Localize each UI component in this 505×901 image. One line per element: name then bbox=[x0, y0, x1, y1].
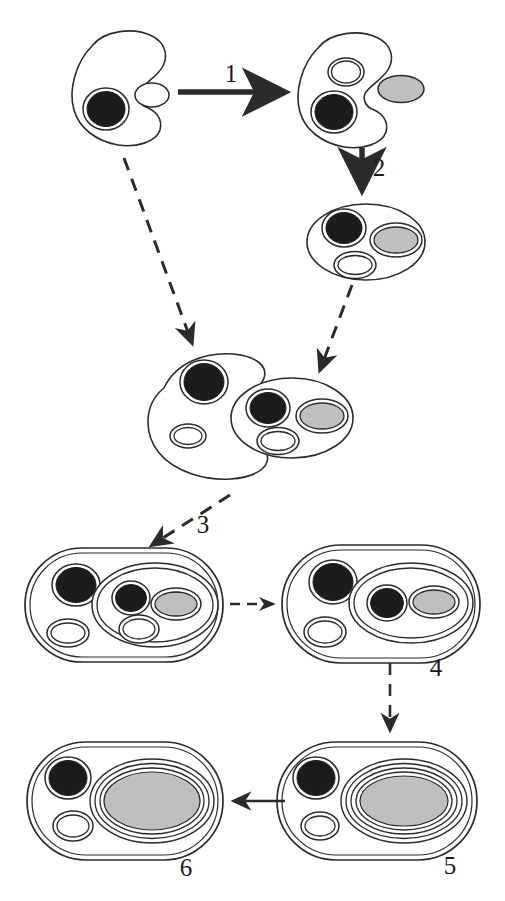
alga-plastid bbox=[374, 227, 418, 253]
stage4-host-vesicle bbox=[308, 621, 342, 643]
stage3-plastid bbox=[155, 592, 197, 616]
cell-host-with-prey bbox=[298, 33, 424, 148]
cell-engulfed-alga bbox=[231, 378, 353, 458]
arrow-host-to-merge-shaft bbox=[124, 158, 192, 343]
arrow-alga-to-merge bbox=[320, 285, 352, 370]
arrow-step-3 bbox=[152, 495, 230, 545]
engulfed-alga-plastid bbox=[300, 403, 344, 429]
arrow-step-3-shaft bbox=[152, 495, 230, 545]
cell-stage-4 bbox=[282, 545, 480, 663]
step-label-2: 2 bbox=[373, 154, 386, 181]
stage6-host-nucleus bbox=[49, 761, 87, 796]
stage4-nucleomorph bbox=[371, 589, 404, 618]
host-nucleus bbox=[315, 95, 353, 130]
stage3-host-vesicle bbox=[51, 623, 85, 643]
stage5-plastid bbox=[360, 776, 448, 826]
cell-primary-alga bbox=[307, 204, 425, 280]
host-vesicle bbox=[135, 83, 169, 107]
cell-stage-6 bbox=[27, 742, 223, 860]
step-label-5: 5 bbox=[444, 852, 457, 879]
stage4-host-nucleus bbox=[313, 564, 353, 601]
step-label-1: 1 bbox=[225, 60, 238, 87]
step-label-3: 3 bbox=[197, 511, 210, 538]
engulfing-host-vesicle bbox=[174, 428, 202, 445]
diagram-canvas: 1 2 3 4 5 6 bbox=[0, 0, 505, 901]
host-nucleus bbox=[87, 92, 125, 127]
host-vesicle bbox=[332, 61, 361, 83]
endosymbiosis-diagram: 1 2 3 4 5 6 bbox=[0, 0, 505, 901]
stage6-plastid bbox=[104, 772, 200, 830]
stage3-endosymbiont-nucleus bbox=[116, 585, 147, 612]
stage5-host-vesicle bbox=[305, 816, 335, 836]
stage5-host-nucleus bbox=[297, 761, 335, 796]
stage6-host-vesicle bbox=[57, 815, 89, 837]
engulfing-host-nucleus bbox=[184, 364, 224, 401]
cell-stage-3 bbox=[25, 548, 223, 662]
stage4-plastid bbox=[413, 590, 455, 614]
step-label-6: 6 bbox=[180, 854, 193, 881]
cell-stage-5 bbox=[277, 742, 477, 860]
cell-host-initial bbox=[72, 31, 169, 146]
stage3-host-nucleus bbox=[56, 568, 96, 603]
step-label-4: 4 bbox=[430, 654, 443, 681]
alga-vesicle bbox=[338, 256, 372, 275]
free-alga-body bbox=[378, 76, 424, 103]
alga-nucleus bbox=[326, 213, 362, 244]
engulfed-alga-nucleus bbox=[250, 393, 286, 424]
arrow-alga-to-merge-shaft bbox=[320, 285, 352, 370]
arrow-host-to-merge bbox=[124, 158, 192, 343]
engulfed-alga-vesicle bbox=[261, 432, 295, 451]
stage3-endosymbiont-vesicle bbox=[123, 619, 155, 639]
